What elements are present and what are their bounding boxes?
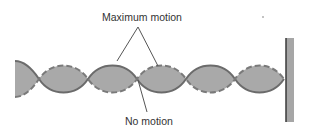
- antinode-loop-4: [186, 66, 235, 93]
- fixed-wall: [286, 38, 294, 122]
- no-motion-label: No motion: [125, 116, 173, 127]
- stray-mark: [262, 16, 264, 18]
- antinode-loop-1: [39, 66, 88, 93]
- maximum-motion-leaders: [117, 27, 158, 66]
- antinode-loop-5: [235, 66, 284, 93]
- antinode-loop-3: [137, 66, 186, 93]
- maximum-motion-label: Maximum motion: [102, 12, 182, 23]
- antinode-loop-2: [88, 66, 137, 93]
